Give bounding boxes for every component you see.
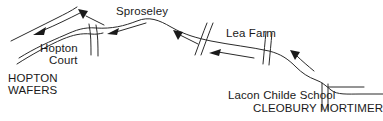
label-hopton-wafers: HOPTONWAFERS bbox=[8, 72, 58, 97]
arrow-hopton-wafers-icon bbox=[33, 27, 46, 35]
road-arrow-tail-leafarm bbox=[218, 52, 254, 58]
label-hopton-wafers-line1: HOPTON bbox=[8, 72, 58, 84]
label-hopton-wafers-line2: WAFERS bbox=[8, 84, 57, 96]
label-sproseley: Sproseley bbox=[116, 5, 168, 17]
sketch-map: Sproseley HoptonCourt HOPTONWAFERS Lea F… bbox=[0, 0, 383, 121]
road-hopton-spur-left bbox=[89, 24, 91, 55]
road-cross-sproseley-left bbox=[195, 23, 207, 55]
road-arrow-tail-cleobury bbox=[297, 56, 314, 71]
road-arrow-tail-sproseley-east bbox=[116, 23, 146, 32]
label-hopton-court-line1: Hopton bbox=[40, 42, 78, 54]
label-hopton-court-line2: Court bbox=[40, 54, 78, 66]
arrow-cleobury-icon bbox=[290, 50, 300, 60]
road-upper-branch bbox=[11, 7, 77, 41]
label-cleobury-mortimer: CLEOBURY MORTIMER bbox=[253, 102, 383, 114]
arrow-sproseley-east-icon bbox=[107, 28, 119, 35]
arrow-sproseley-west-icon bbox=[78, 9, 88, 19]
road-hopton-spur-right bbox=[96, 25, 98, 56]
arrow-lea-farm-west-icon bbox=[209, 49, 221, 56]
label-lea-farm: Lea Farm bbox=[226, 27, 276, 39]
label-lacon-childe-school: Lacon Childe School bbox=[228, 89, 335, 101]
label-hopton-court: HoptonCourt bbox=[40, 42, 78, 67]
arrow-mid-route-icon bbox=[173, 30, 183, 40]
road-arrow-tail-mid bbox=[180, 35, 198, 44]
